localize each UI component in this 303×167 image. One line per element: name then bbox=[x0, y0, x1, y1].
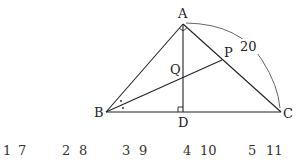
arc-ac bbox=[186, 23, 280, 108]
choice-4-a: 4 bbox=[183, 143, 191, 158]
choice-5-b: 11 bbox=[266, 143, 283, 158]
choice-4-b: 10 bbox=[200, 143, 217, 158]
label-d: D bbox=[178, 115, 188, 130]
choice-1-b: 7 bbox=[18, 143, 26, 158]
choice-3-a: 3 bbox=[122, 143, 130, 158]
right-angle-mark-d bbox=[178, 107, 183, 112]
choice-3-b: 9 bbox=[139, 143, 147, 158]
answer-choices: 1 7 2 8 3 9 4 10 5 11 bbox=[3, 143, 283, 158]
label-c: C bbox=[283, 106, 293, 121]
geometry-figure: 20 A B C D P Q 1 7 2 8 3 9 4 10 5 11 bbox=[0, 0, 303, 167]
arc-length-label: 20 bbox=[240, 39, 257, 54]
label-q: Q bbox=[170, 62, 181, 77]
choice-5-a: 5 bbox=[248, 143, 256, 158]
angle-mark-dot-1 bbox=[120, 100, 122, 102]
label-b: B bbox=[94, 105, 104, 120]
label-p: P bbox=[224, 45, 233, 60]
segment-bp bbox=[106, 60, 222, 112]
choice-1-a: 1 bbox=[3, 143, 11, 158]
label-a: A bbox=[177, 6, 188, 21]
choice-2-a: 2 bbox=[62, 143, 70, 158]
choice-2-b: 8 bbox=[79, 143, 87, 158]
angle-mark-dot-2 bbox=[122, 107, 124, 109]
